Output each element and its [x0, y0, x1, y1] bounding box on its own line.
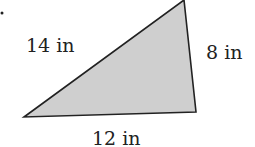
- triangle: [24, 0, 196, 117]
- side-label-left: 14 in: [26, 36, 75, 55]
- side-label-bottom: 12 in: [92, 129, 141, 147]
- side-label-right: 8 in: [206, 43, 242, 62]
- triangle-diagram: [0, 0, 255, 147]
- marker-dot: [1, 12, 4, 15]
